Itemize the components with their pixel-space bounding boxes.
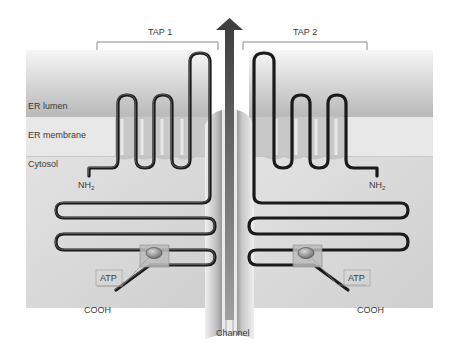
transport-arrow-head <box>216 18 243 30</box>
tap2-label: TAP 2 <box>293 27 317 37</box>
tap-diagram-canvas <box>0 0 459 355</box>
channel-label: Channel <box>216 328 250 338</box>
tap1-atp-label: ATP <box>100 273 117 283</box>
tap1-label: TAP 1 <box>148 27 172 37</box>
tap2-c-terminus-label: COOH <box>357 305 384 315</box>
tap2-atp-label: ATP <box>348 273 365 283</box>
tap1-atp-icon <box>146 248 162 259</box>
tap2-bracket <box>243 42 367 50</box>
tap1-c-terminus-label: COOH <box>84 305 111 315</box>
transport-arrow-shaft <box>225 30 234 320</box>
cytosol-label: Cytosol <box>28 159 58 169</box>
er-membrane-label: ER membrane <box>28 130 86 140</box>
tap1-n-terminus-label: NH2 <box>78 180 94 191</box>
er-lumen-label: ER lumen <box>28 101 68 111</box>
er-lumen-right <box>249 50 433 117</box>
channel-wall-right <box>237 110 254 342</box>
tap2-n-terminus-label: NH2 <box>369 180 385 191</box>
tap2-atp-icon <box>298 248 314 259</box>
tap1-bracket <box>97 42 218 50</box>
